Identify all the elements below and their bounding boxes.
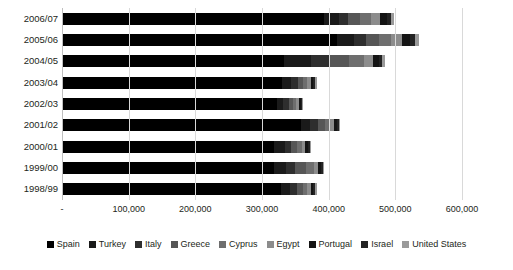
- gridline-0: [62, 8, 63, 200]
- bar-segment-united-states[interactable]: [391, 13, 394, 25]
- bar-segment-turkey[interactable]: [337, 34, 354, 46]
- legend-swatch-israel: [361, 241, 368, 248]
- legend-item-united-states[interactable]: United States: [402, 239, 466, 249]
- bar-segment-egypt[interactable]: [371, 13, 380, 25]
- bar-row[interactable]: [62, 98, 303, 110]
- bar-segment-italy[interactable]: [285, 141, 292, 153]
- legend-swatch-portugal: [309, 241, 316, 248]
- legend-label-portugal: Portugal: [319, 239, 353, 249]
- bar-segment-greece[interactable]: [318, 119, 325, 131]
- x-axis: -100,000200,000300,000400,000500,000600,…: [62, 203, 462, 219]
- bar-row[interactable]: [62, 162, 324, 174]
- bar-segment-turkey[interactable]: [284, 55, 311, 67]
- bar-segment-greece[interactable]: [295, 162, 306, 174]
- bar-segment-spain[interactable]: [62, 141, 274, 153]
- x-axis-tick-label: 500,000: [379, 203, 412, 215]
- bar-row[interactable]: [62, 141, 311, 153]
- legend-item-egypt[interactable]: Egypt: [267, 239, 300, 249]
- bar-row[interactable]: [62, 13, 394, 25]
- legend-item-cyprus[interactable]: Cyprus: [219, 239, 258, 249]
- bar-segment-cyprus[interactable]: [360, 13, 371, 25]
- bar-segment-egypt[interactable]: [364, 55, 373, 67]
- bar-segment-cyprus[interactable]: [306, 162, 314, 174]
- bar-row[interactable]: [62, 77, 317, 89]
- x-axis-tick-label: 400,000: [312, 203, 345, 215]
- y-axis-label-2000-01: 2000/01: [2, 142, 58, 152]
- bar-segment-cyprus[interactable]: [349, 55, 364, 67]
- bar-segment-italy[interactable]: [354, 34, 366, 46]
- bar-segment-spain[interactable]: [62, 119, 301, 131]
- bar-segment-united-states[interactable]: [415, 34, 419, 46]
- bar-segment-spain[interactable]: [62, 98, 277, 110]
- x-axis-tick-label: 300,000: [246, 203, 279, 215]
- bar-segment-united-states[interactable]: [323, 162, 324, 174]
- bar-segment-spain[interactable]: [62, 183, 281, 195]
- bar-segment-turkey[interactable]: [281, 183, 290, 195]
- bar-segment-united-states[interactable]: [315, 183, 316, 195]
- x-axis-tick-label: 200,000: [179, 203, 212, 215]
- bar-segment-egypt[interactable]: [391, 34, 402, 46]
- bar-segment-spain[interactable]: [62, 13, 324, 25]
- bar-segment-greece[interactable]: [329, 55, 349, 67]
- bar-segment-spain[interactable]: [62, 162, 274, 174]
- x-axis-tick-label: 100,000: [112, 203, 145, 215]
- legend-item-greece[interactable]: Greece: [171, 239, 211, 249]
- bar-segment-turkey[interactable]: [282, 77, 291, 89]
- gridline-500000: [395, 8, 396, 200]
- legend-item-spain[interactable]: Spain: [47, 239, 80, 249]
- x-axis-tick-label: -: [61, 203, 64, 215]
- bar-segment-greece[interactable]: [366, 34, 379, 46]
- bar-segment-turkey[interactable]: [324, 13, 339, 25]
- y-axis: 2006/072005/062004/052003/042002/032001/…: [0, 8, 58, 200]
- legend-item-turkey[interactable]: Turkey: [89, 239, 126, 249]
- bar-segment-spain[interactable]: [62, 55, 284, 67]
- gridline-400000: [329, 8, 330, 200]
- bar-segment-united-states[interactable]: [382, 55, 385, 67]
- bar-segment-italy[interactable]: [286, 162, 295, 174]
- legend-swatch-united-states: [402, 241, 409, 248]
- legend-item-israel[interactable]: Israel: [361, 239, 393, 249]
- bar-segment-united-states[interactable]: [310, 141, 311, 153]
- bar-row[interactable]: [62, 183, 317, 195]
- bar-segment-united-states[interactable]: [302, 98, 303, 110]
- legend-swatch-cyprus: [219, 241, 226, 248]
- y-axis-label-1999-00: 1999/00: [2, 163, 58, 173]
- y-axis-label-2005-06: 2005/06: [2, 35, 58, 45]
- bar-segment-portugal[interactable]: [402, 34, 410, 46]
- gridline-300000: [262, 8, 263, 200]
- gridline-100000: [129, 8, 130, 200]
- bar-segment-spain[interactable]: [62, 34, 337, 46]
- bar-segment-spain[interactable]: [62, 77, 282, 89]
- bar-row[interactable]: [62, 34, 419, 46]
- bar-segment-portugal[interactable]: [380, 13, 387, 25]
- bar-segment-italy[interactable]: [311, 55, 330, 67]
- bar-segment-turkey[interactable]: [274, 162, 286, 174]
- bar-segment-italy[interactable]: [290, 183, 297, 195]
- bar-segment-italy[interactable]: [310, 119, 318, 131]
- legend-label-cyprus: Cyprus: [229, 239, 258, 249]
- legend-label-spain: Spain: [57, 239, 80, 249]
- bar-segment-turkey[interactable]: [277, 98, 284, 110]
- bar-segment-cyprus[interactable]: [379, 34, 391, 46]
- bar-row[interactable]: [62, 55, 385, 67]
- bar-segment-turkey[interactable]: [301, 119, 310, 131]
- legend-swatch-greece: [171, 241, 178, 248]
- bar-segment-italy[interactable]: [291, 77, 298, 89]
- bar-segment-united-states[interactable]: [339, 119, 340, 131]
- bar-row[interactable]: [62, 119, 340, 131]
- y-axis-label-2006-07: 2006/07: [2, 14, 58, 24]
- legend-swatch-turkey: [89, 241, 96, 248]
- bar-segment-turkey[interactable]: [274, 141, 285, 153]
- legend-item-portugal[interactable]: Portugal: [309, 239, 353, 249]
- gridline-600000: [462, 8, 463, 200]
- y-axis-label-1998-99: 1998/99: [2, 184, 58, 194]
- bar-segment-italy[interactable]: [339, 13, 348, 25]
- bar-segment-greece[interactable]: [348, 13, 360, 25]
- legend-label-israel: Israel: [371, 239, 393, 249]
- y-axis-label-2002-03: 2002/03: [2, 99, 58, 109]
- legend-label-united-states: United States: [412, 239, 466, 249]
- plot-area: [62, 8, 462, 200]
- bar-segment-united-states[interactable]: [315, 77, 316, 89]
- chart-legend: SpainTurkeyItalyGreeceCyprusEgyptPortuga…: [0, 239, 513, 249]
- legend-item-italy[interactable]: Italy: [135, 239, 162, 249]
